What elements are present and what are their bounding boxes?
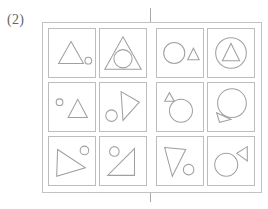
cell-canvas [157,29,203,77]
grid-cell [99,136,147,186]
circle-shape [218,89,247,118]
grid-cell [48,28,96,78]
circle-shape [56,99,63,106]
triangle-rotated-shape [165,148,186,177]
grid-cell [99,28,147,78]
circle-shape [114,50,132,68]
circle-shape [106,110,118,122]
cell-canvas [157,137,203,185]
right-triangle-shape [108,149,135,176]
triangle-shape [105,37,141,70]
grid-cell [99,82,147,132]
cell-canvas [157,83,203,131]
circle-shape [164,42,185,63]
grid-cell [207,28,255,78]
grid-cell [207,136,255,186]
cell-canvas [208,83,254,131]
grid-cell [156,136,204,186]
grid-cell [48,136,96,186]
cell-canvas [208,137,254,185]
circle-shape [183,164,194,175]
cell-canvas [49,83,95,131]
cell-canvas [208,29,254,77]
cell-canvas [100,83,146,131]
triangle-shape [188,48,200,60]
circle-shape [80,146,89,155]
circle-shape [215,153,238,176]
grid-cell [48,82,96,132]
circle-shape [85,57,92,64]
grid-cell [207,82,255,132]
triangle-shape [59,42,84,64]
figure-label: (2) [7,13,24,27]
circle-shape [169,99,192,122]
grid-cell [156,82,204,132]
triangle-rotated-shape [121,92,139,121]
figure-root: (2) [0,0,268,209]
triangle-shape [68,99,87,117]
cell-canvas [49,137,95,185]
grid-cell [156,28,204,78]
cell-canvas [100,137,146,185]
triangle-rotated-shape [237,147,248,161]
cell-canvas [100,29,146,77]
triangle-shape [165,93,175,102]
triangle-shape [222,43,239,60]
circle-shape [110,147,120,157]
cell-canvas [49,29,95,77]
